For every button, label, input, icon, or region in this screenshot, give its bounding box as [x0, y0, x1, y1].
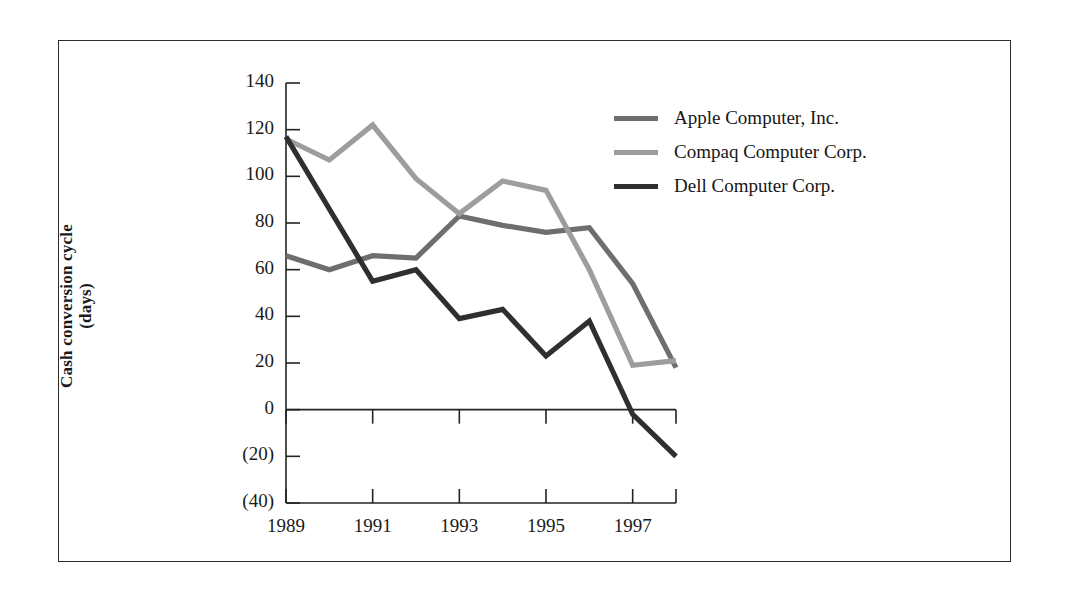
- y-tick-label: 140: [174, 70, 274, 92]
- legend-swatch-icon: [614, 116, 658, 121]
- legend-label: Compaq Computer Corp.: [674, 141, 867, 163]
- legend-swatch-icon: [614, 150, 658, 155]
- chart-page: Cash conversion cycle (days) 14012010080…: [0, 0, 1065, 591]
- legend-label: Dell Computer Corp.: [674, 175, 835, 197]
- x-tick-label: 1989: [241, 515, 331, 537]
- figure-frame: Cash conversion cycle (days) 14012010080…: [58, 40, 1011, 562]
- y-tick-label: 100: [174, 163, 274, 185]
- y-tick-label: 20: [174, 350, 274, 372]
- legend-item: Dell Computer Corp.: [614, 169, 974, 203]
- y-tick-label: 80: [174, 210, 274, 232]
- legend-item: Apple Computer, Inc.: [614, 101, 974, 135]
- plot-area: Cash conversion cycle (days) 14012010080…: [59, 41, 1012, 563]
- x-tick-label: 1997: [588, 515, 678, 537]
- y-tick-label: 40: [174, 303, 274, 325]
- chart-legend: Apple Computer, Inc.Compaq Computer Corp…: [614, 101, 974, 203]
- y-tick-label: 120: [174, 117, 274, 139]
- y-tick-label: (40): [174, 490, 274, 512]
- y-tick-label: 60: [174, 257, 274, 279]
- legend-label: Apple Computer, Inc.: [674, 107, 839, 129]
- x-tick-label: 1995: [501, 515, 591, 537]
- legend-swatch-icon: [614, 184, 658, 189]
- y-tick-label: (20): [174, 443, 274, 465]
- legend-item: Compaq Computer Corp.: [614, 135, 974, 169]
- x-tick-label: 1993: [414, 515, 504, 537]
- y-tick-label: 0: [174, 397, 274, 419]
- x-tick-label: 1991: [328, 515, 418, 537]
